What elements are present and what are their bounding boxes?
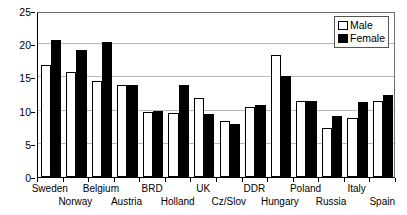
bar-cz-slov-female (230, 124, 240, 177)
y-tick-label: 25 (5, 7, 31, 17)
x-tick-mark (190, 178, 191, 182)
bar-group (243, 13, 269, 177)
legend-label-female: Female (350, 33, 385, 44)
legend-item-female: Female (338, 32, 385, 45)
bar-ddr-male (245, 107, 255, 177)
bar-brd-male (143, 112, 153, 177)
bar-hungary-male (271, 55, 281, 177)
bar-brd-female (153, 111, 163, 177)
x-tick-mark (114, 178, 115, 182)
y-axis: 2520151050 (0, 12, 31, 178)
bar-italy-male (347, 118, 357, 177)
x-tick-mark (395, 178, 396, 182)
y-tick-mark (31, 78, 35, 79)
bar-belgium-female (102, 42, 112, 177)
legend-label-male: Male (350, 20, 373, 31)
y-tick-mark (31, 112, 35, 113)
y-tick-mark (31, 145, 35, 146)
y-tick-mark (31, 45, 35, 46)
bar-chart: 2520151050 SwedenNorwayBelgiumAustriaBRD… (0, 0, 407, 215)
bar-cz-slov-male (220, 121, 230, 177)
x-tick-mark (344, 178, 345, 182)
chart-legend: Male Female (334, 16, 389, 48)
bar-holland-female (179, 85, 189, 177)
bar-group (64, 13, 90, 177)
bar-russia-male (322, 128, 332, 177)
x-tick-mark (242, 178, 243, 182)
bar-russia-female (332, 116, 342, 177)
bar-group (166, 13, 192, 177)
y-tick-label: 15 (5, 73, 31, 83)
bar-holland-male (168, 113, 178, 177)
x-tick-label-italy: Italy (327, 183, 387, 194)
bar-group (115, 13, 141, 177)
x-tick-mark (369, 178, 370, 182)
x-tick-mark (216, 178, 217, 182)
bar-uk-female (204, 114, 214, 177)
bar-group (217, 13, 243, 177)
bar-austria-female (127, 85, 137, 177)
bar-norway-male (66, 72, 76, 177)
y-tick-mark (31, 178, 35, 179)
bar-sweden-female (51, 40, 61, 177)
bar-austria-male (117, 85, 127, 177)
bar-italy-female (358, 102, 368, 177)
bar-poland-female (306, 101, 316, 177)
bar-group (89, 13, 115, 177)
x-tick-mark (88, 178, 89, 182)
y-tick-label: 0 (5, 173, 31, 183)
bar-norway-female (76, 50, 86, 177)
bar-uk-male (194, 98, 204, 177)
legend-item-male: Male (338, 19, 385, 32)
bar-group (268, 13, 294, 177)
y-tick-label: 20 (5, 40, 31, 50)
x-tick-mark (37, 178, 38, 182)
bar-hungary-female (281, 76, 291, 177)
bar-group (294, 13, 320, 177)
male-swatch-icon (338, 21, 348, 30)
bar-spain-female (383, 95, 393, 177)
bar-sweden-male (41, 65, 51, 177)
bar-spain-male (373, 101, 383, 177)
y-tick-mark (31, 12, 35, 13)
x-tick-label-spain: Spain (352, 196, 407, 207)
x-tick-mark (139, 178, 140, 182)
bar-belgium-male (92, 81, 102, 177)
bar-group (38, 13, 64, 177)
y-tick-label: 10 (5, 107, 31, 117)
y-tick-label: 5 (5, 140, 31, 150)
x-tick-mark (318, 178, 319, 182)
x-tick-mark (165, 178, 166, 182)
female-swatch-icon (338, 34, 348, 43)
x-tick-mark (63, 178, 64, 182)
bar-group (191, 13, 217, 177)
bar-poland-male (296, 101, 306, 177)
bar-ddr-female (255, 105, 265, 177)
x-tick-mark (293, 178, 294, 182)
x-tick-mark (267, 178, 268, 182)
bar-group (140, 13, 166, 177)
